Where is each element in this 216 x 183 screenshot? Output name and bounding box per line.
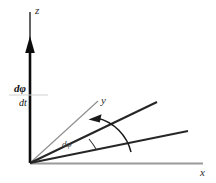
angle-increment-label: dφ [62, 139, 72, 149]
vector-numerator-label: dφ [14, 82, 27, 94]
y-axis-label: y [100, 94, 106, 106]
vector-denominator-label: dt [19, 97, 27, 108]
diagram-svg: z x y dφ dφ dt [0, 0, 216, 183]
canvas-background [0, 0, 216, 183]
x-axis-label: x [199, 166, 205, 178]
z-axis-label: z [34, 4, 40, 16]
physics-diagram-canvas: z x y dφ dφ dt [0, 0, 216, 183]
